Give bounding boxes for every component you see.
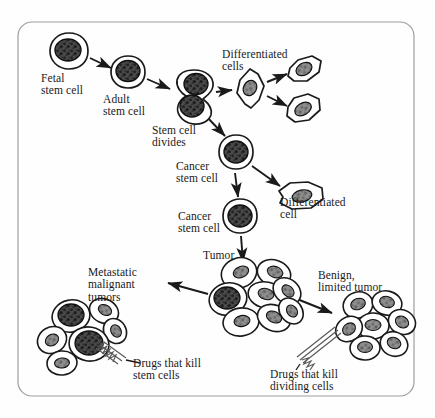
nucleus-cancer-stem	[214, 287, 240, 309]
metastatic-cluster	[33, 294, 132, 377]
nucleus-daughter-1	[184, 74, 208, 95]
fetal-stem-cell-node	[50, 33, 88, 69]
arrow-tumor-to-metastatic	[168, 283, 208, 294]
diagram-canvas	[0, 0, 435, 418]
cancer-stem-cell-diagram: Fetal stem cell Adult stem cell Stem cel…	[0, 0, 435, 418]
nucleus-cancer-stem	[75, 331, 103, 355]
nucleus-cancer-stem	[58, 304, 84, 326]
arrow-fetal-to-adult	[90, 58, 111, 68]
arrow-diff-to-diff-b	[267, 74, 287, 82]
label-drugs-kill-stem-cells: Drugs that kill stem cells	[133, 357, 201, 382]
drug-pointer-dividing-cells	[296, 327, 341, 370]
label-tumor: Tumor	[203, 249, 234, 261]
dividing-stem-cell	[177, 70, 213, 124]
differentiated-cell-c	[287, 94, 320, 122]
arrow-adult-to-dividing	[147, 79, 170, 89]
label-cancer-stem-cell-1: Cancer stem cell	[176, 160, 218, 185]
nucleus	[55, 39, 81, 61]
benign-cluster	[331, 288, 421, 361]
differentiated-cell-b	[288, 56, 321, 81]
arrow-diff-to-diff-c	[267, 96, 287, 106]
differentiated-cell-a	[237, 69, 264, 108]
nucleus	[365, 320, 381, 331]
arrow-dividing-to-diff	[216, 90, 232, 92]
nucleus	[116, 61, 140, 82]
label-fetal-stem-cell: Fetal stem cell	[41, 72, 83, 97]
nucleus	[358, 342, 373, 353]
tumor-cluster	[206, 253, 309, 339]
arrow-cancer1-to-cancer2	[235, 173, 238, 197]
cancer-stem-cell-node-1	[219, 135, 253, 169]
label-stem-cell-divides: Stem cell divides	[152, 124, 196, 149]
cancer-stem-cell-node-2	[223, 199, 257, 233]
label-cancer-stem-cell-2: Cancer stem cell	[178, 210, 220, 235]
arrow-cancer-to-diff-d	[252, 166, 280, 186]
nucleus	[228, 205, 252, 227]
label-differentiated-cell: Differentiated cell	[280, 196, 346, 221]
nucleus-daughter-2	[180, 95, 204, 117]
label-differentiated-cells: Differentiated cells	[222, 48, 288, 73]
adult-stem-cell-node	[111, 56, 145, 88]
label-benign-tumor: Benign, limited tumor	[318, 269, 382, 294]
label-metastatic-tumors: Metastatic malignant tumors	[88, 266, 137, 303]
label-drugs-kill-dividing: Drugs that kill dividing cells	[270, 368, 338, 393]
nucleus	[224, 141, 248, 163]
label-adult-stem-cell: Adult stem cell	[103, 93, 145, 118]
